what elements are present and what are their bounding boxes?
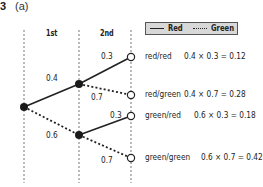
prob-second-green-after-green: 0.7: [101, 155, 113, 165]
prob-second-red-after-red: 0.3: [101, 51, 113, 61]
outcome-label-green-red: green/red: [145, 110, 181, 120]
end-node-green-red: [127, 112, 134, 119]
solid-line-icon: [150, 28, 164, 29]
dashed-line-icon: [193, 28, 207, 29]
prob-second-red-after-green: 0.3: [110, 110, 122, 120]
node-first-red: [75, 80, 83, 88]
branch-rr: [79, 57, 131, 84]
outcome-calc-green-green: 0.6 × 0.7 = 0.42: [201, 152, 263, 162]
outcome-label-green-green: green/green: [145, 152, 190, 162]
branch-first-red: [24, 84, 79, 107]
legend-item-red: Red: [150, 24, 185, 33]
outcome-calc-green-red: 0.6 × 0.3 = 0.18: [194, 110, 256, 120]
outcome-calc-red-red: 0.4 × 0.3 = 0.12: [184, 51, 246, 61]
outcome-calc-red-green: 0.4 × 0.7 = 0.28: [184, 89, 246, 99]
prob-first-red: 0.4: [46, 73, 58, 83]
node-first-green: [75, 131, 83, 139]
legend-item-green: Green: [185, 24, 238, 33]
end-node-red-red: [127, 53, 134, 60]
legend-label-green: Green: [211, 24, 234, 33]
column-header-first: 1st: [46, 28, 57, 38]
prob-first-green: 0.6: [46, 130, 58, 140]
root-node: [20, 103, 28, 111]
end-node-green-green: [127, 154, 134, 161]
legend: Red Green: [145, 22, 238, 35]
outcome-label-red-green: red/green: [145, 89, 181, 99]
end-node-red-green: [127, 91, 134, 98]
branch-gr: [79, 116, 131, 135]
column-header-second: 2nd: [100, 28, 114, 38]
legend-label-red: Red: [168, 24, 183, 33]
outcome-label-red-red: red/red: [145, 51, 172, 61]
prob-second-green-after-red: 0.7: [91, 92, 103, 102]
branch-rg: [79, 84, 131, 95]
